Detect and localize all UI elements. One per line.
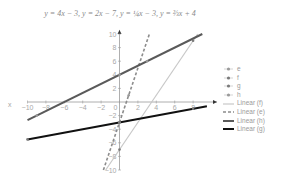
- data-point-marker: [192, 40, 195, 43]
- legend-item: h: [222, 91, 265, 100]
- y-tick-label: 8: [113, 44, 117, 51]
- legend-item: Linear (h): [222, 117, 265, 126]
- legend-label: Linear (g): [237, 125, 265, 134]
- y-tick-label: −4: [109, 126, 117, 133]
- trend-line: [28, 106, 207, 139]
- legend-swatch-icon: [222, 91, 235, 99]
- data-point-marker: [127, 94, 130, 97]
- x-axis-label: x: [8, 101, 12, 108]
- x-tick-label: −4: [79, 104, 87, 111]
- y-axis-arrow-icon: [118, 30, 122, 34]
- legend-label: Linear (f): [237, 99, 263, 108]
- data-point-marker: [118, 74, 121, 77]
- y-tick-label: 10: [109, 31, 117, 38]
- legend-item: e: [222, 65, 265, 74]
- x-tick-label: −10: [22, 104, 34, 111]
- legend: efghLinear (f)Linear (e)Linear (h)Linear…: [222, 65, 265, 134]
- legend-item: Linear (g): [222, 125, 265, 134]
- data-point-marker: [118, 121, 121, 124]
- x-tick-label: 4: [154, 104, 158, 111]
- legend-label: h: [237, 91, 241, 100]
- data-point-marker: [26, 138, 29, 141]
- data-point-marker: [146, 60, 149, 63]
- legend-swatch-icon: [222, 82, 235, 90]
- data-point-marker: [35, 114, 38, 117]
- legend-label: g: [237, 82, 241, 91]
- y-tick-label: 6: [113, 58, 117, 65]
- legend-swatch-icon: [222, 108, 235, 116]
- legend-swatch-icon: [222, 100, 235, 108]
- y-tick-label: 2: [113, 85, 117, 92]
- legend-swatch-icon: [222, 65, 235, 73]
- legend-item: Linear (e): [222, 108, 265, 117]
- legend-swatch-icon: [222, 125, 235, 133]
- data-point-marker: [192, 108, 195, 111]
- legend-swatch-icon: [222, 74, 235, 82]
- x-tick-label: 2: [136, 104, 140, 111]
- legend-item: Linear (f): [222, 99, 265, 108]
- y-tick-label: −2: [109, 112, 117, 119]
- x-tick-label: 0: [114, 104, 118, 111]
- x-tick-label: −2: [97, 104, 105, 111]
- x-axis-arrow-icon: [213, 100, 217, 104]
- legend-item: f: [222, 74, 265, 83]
- data-point-marker: [118, 148, 121, 151]
- legend-item: g: [222, 82, 265, 91]
- x-tick-label: −6: [60, 104, 68, 111]
- legend-label: Linear (e): [237, 108, 265, 117]
- legend-label: Linear (h): [237, 117, 265, 126]
- legend-label: e: [237, 65, 241, 74]
- x-tick-label: 6: [173, 104, 177, 111]
- legend-label: f: [237, 74, 239, 83]
- legend-swatch-icon: [222, 117, 235, 125]
